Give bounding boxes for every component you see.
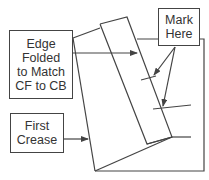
label-line: CF to CB xyxy=(15,79,66,93)
label-line: Mark xyxy=(165,13,193,27)
label-line: Edge xyxy=(15,37,66,51)
mark-tick-1 xyxy=(141,76,156,80)
label-line: First xyxy=(17,119,57,133)
label-line: to Match xyxy=(15,65,66,79)
label-line: Folded xyxy=(15,51,66,65)
label-line: Crease xyxy=(17,133,57,147)
mark-tick-2 xyxy=(153,105,191,109)
first-crease-label: First Crease xyxy=(10,113,64,153)
first-crease-line xyxy=(73,38,95,171)
label-line: Here xyxy=(165,27,193,41)
mark-here-label: Mark Here xyxy=(158,8,200,46)
edge-folded-label: Edge Folded to Match CF to CB xyxy=(9,30,73,99)
